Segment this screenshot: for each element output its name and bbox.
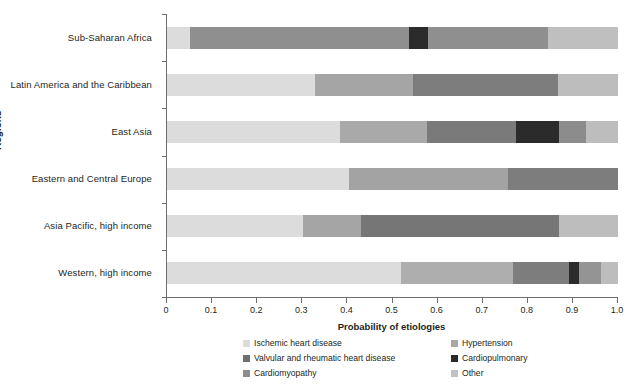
plot-area: 00.10.20.30.40.50.60.70.80.91.0 Probabil… bbox=[166, 14, 617, 297]
x-axis-tick-label: 0.4 bbox=[340, 305, 353, 315]
bar-row bbox=[167, 121, 618, 143]
y-axis-tick bbox=[162, 61, 167, 62]
bar-segment bbox=[516, 121, 559, 143]
x-axis-tick-label: 1.0 bbox=[611, 305, 624, 315]
y-axis-label: Western, high income bbox=[58, 267, 152, 278]
legend-swatch bbox=[243, 340, 250, 347]
legend-item: Ischemic heart disease bbox=[243, 339, 451, 348]
y-axis-tick bbox=[162, 108, 167, 109]
bar-row bbox=[167, 168, 618, 190]
bar-segment bbox=[586, 121, 618, 143]
x-axis-tick-label: 0.7 bbox=[475, 305, 488, 315]
bar-segment bbox=[558, 74, 618, 96]
bar-segment bbox=[190, 27, 410, 49]
legend-item: Hypertension bbox=[451, 339, 573, 348]
legend-label: Other bbox=[462, 369, 484, 378]
bar-segment bbox=[427, 121, 516, 143]
legend-swatch bbox=[243, 370, 250, 377]
legend-label: Hypertension bbox=[462, 339, 513, 348]
legend-label: Valvular and rheumatic heart disease bbox=[254, 354, 395, 363]
bar-segment bbox=[167, 27, 190, 49]
y-axis-label: Asia Pacific, high income bbox=[44, 220, 152, 231]
bar-segment bbox=[167, 168, 349, 190]
legend-item: Cardiopulmonary bbox=[451, 354, 573, 363]
x-axis-tick bbox=[166, 298, 167, 303]
bar-row bbox=[167, 74, 618, 96]
bar-segment bbox=[315, 74, 413, 96]
x-axis-tick bbox=[301, 298, 302, 303]
legend-swatch bbox=[451, 340, 458, 347]
y-axis-tick bbox=[162, 250, 167, 251]
x-axis-tick-label: 0.1 bbox=[205, 305, 218, 315]
x-axis-tick bbox=[527, 298, 528, 303]
x-axis-tick bbox=[256, 298, 257, 303]
bar-row bbox=[167, 27, 618, 49]
bar-row bbox=[167, 215, 618, 237]
x-axis-tick-label: 0.9 bbox=[566, 305, 579, 315]
x-axis-tick-label: 0 bbox=[163, 305, 168, 315]
bar-segment bbox=[601, 262, 618, 284]
x-axis-tick-label: 0.6 bbox=[430, 305, 443, 315]
bar-segment bbox=[559, 121, 586, 143]
y-axis-label: Eastern and Central Europe bbox=[32, 173, 152, 184]
legend-label: Cardiopulmonary bbox=[462, 354, 527, 363]
bar-segment bbox=[401, 262, 513, 284]
bar-segment bbox=[167, 215, 303, 237]
x-axis-tick bbox=[437, 298, 438, 303]
y-axis-tick bbox=[162, 14, 167, 15]
bar-row bbox=[167, 262, 618, 284]
chart-legend: Ischemic heart diseaseHypertensionValvul… bbox=[243, 336, 573, 381]
x-axis-tick bbox=[211, 298, 212, 303]
legend-label: Cardiomyopathy bbox=[254, 369, 317, 378]
bar-segment bbox=[340, 121, 427, 143]
y-axis-tick bbox=[162, 203, 167, 204]
bar-segment bbox=[579, 262, 601, 284]
x-axis-tick bbox=[346, 298, 347, 303]
legend-label: Ischemic heart disease bbox=[254, 339, 342, 348]
bar-segment bbox=[167, 262, 401, 284]
legend-swatch bbox=[243, 355, 250, 362]
y-axis-label: East Asia bbox=[111, 126, 152, 137]
y-axis-tick bbox=[162, 156, 167, 157]
legend-swatch bbox=[451, 355, 458, 362]
bar-segment bbox=[569, 262, 579, 284]
bar-segment bbox=[513, 262, 569, 284]
bar-segment bbox=[559, 215, 618, 237]
legend-swatch bbox=[451, 370, 458, 377]
bar-segment bbox=[349, 168, 508, 190]
x-axis-tick-label: 0.8 bbox=[521, 305, 534, 315]
x-axis-tick bbox=[482, 298, 483, 303]
x-axis-title: Probability of etiologies bbox=[166, 321, 617, 332]
y-axis-title: Regions bbox=[0, 111, 3, 150]
bar-segment bbox=[548, 27, 618, 49]
legend-item: Valvular and rheumatic heart disease bbox=[243, 354, 451, 363]
x-axis-tick bbox=[392, 298, 393, 303]
y-axis-label: Sub-Saharan Africa bbox=[68, 32, 152, 43]
bar-segment bbox=[303, 215, 361, 237]
bar-segment bbox=[428, 27, 548, 49]
bar-segment bbox=[413, 74, 558, 96]
bar-segment bbox=[409, 27, 428, 49]
legend-item: Other bbox=[451, 369, 573, 378]
x-axis-tick bbox=[617, 298, 618, 303]
legend-item: Cardiomyopathy bbox=[243, 369, 451, 378]
bar-segment bbox=[508, 168, 618, 190]
y-axis-category-labels: Sub-Saharan AfricaLatin America and the … bbox=[0, 14, 160, 297]
x-axis-tick-label: 0.2 bbox=[250, 305, 263, 315]
x-axis-tick-label: 0.5 bbox=[385, 305, 398, 315]
x-axis-tick bbox=[572, 298, 573, 303]
chart-page: Sub-Saharan AfricaLatin America and the … bbox=[0, 0, 630, 386]
bar-segment bbox=[361, 215, 559, 237]
bar-segment bbox=[167, 121, 340, 143]
y-axis-label: Latin America and the Caribbean bbox=[11, 79, 152, 90]
x-axis-tick-label: 0.3 bbox=[295, 305, 308, 315]
bar-segment bbox=[167, 74, 315, 96]
